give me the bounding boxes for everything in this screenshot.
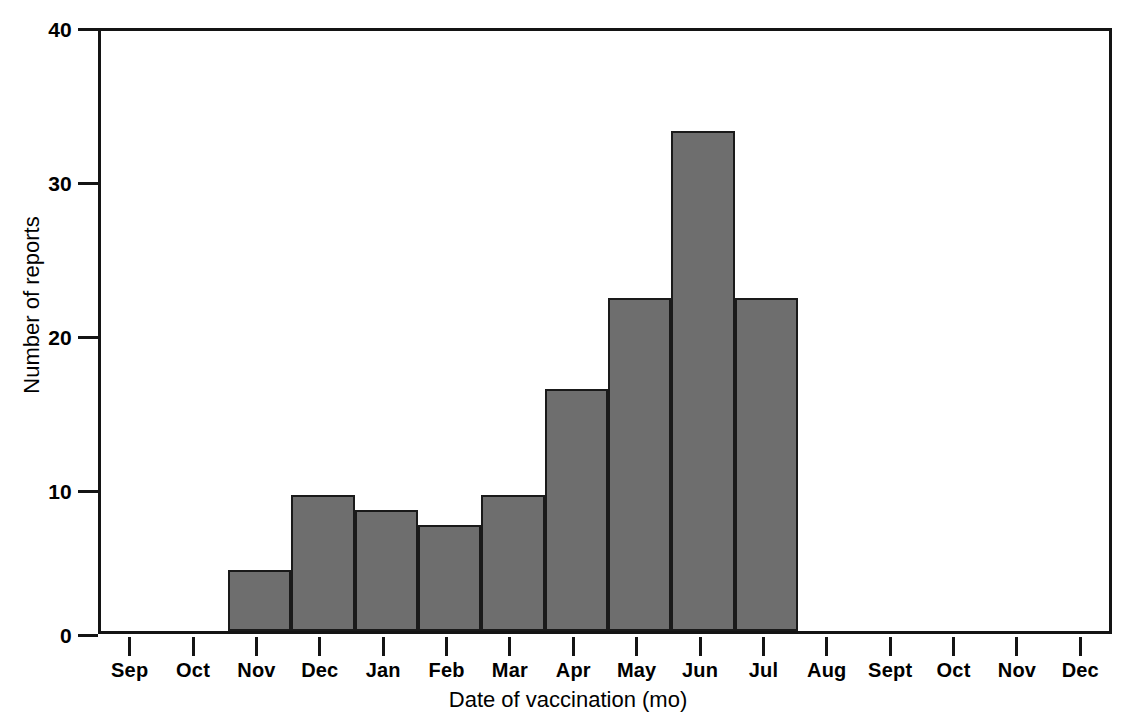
x-axis-tick xyxy=(952,637,955,656)
y-axis-tick xyxy=(78,182,98,185)
x-axis-tick xyxy=(699,637,702,656)
scan-artifact xyxy=(0,713,1136,727)
x-axis-tick xyxy=(192,637,195,656)
x-tick-label: Dec xyxy=(1035,660,1125,680)
x-axis-tick xyxy=(382,637,385,656)
bar xyxy=(545,389,608,631)
y-axis-tick xyxy=(78,336,98,339)
bar xyxy=(671,131,734,631)
x-axis-tick xyxy=(889,637,892,656)
bar xyxy=(735,298,798,631)
x-axis-tick xyxy=(762,637,765,656)
x-axis-tick xyxy=(572,637,575,656)
bar xyxy=(291,495,354,631)
x-axis-tick xyxy=(445,637,448,656)
x-axis-tick xyxy=(1015,637,1018,656)
y-axis-tick xyxy=(78,28,98,31)
plot-area xyxy=(98,28,1112,634)
bar xyxy=(608,298,671,631)
x-axis-tick xyxy=(318,637,321,656)
x-axis-tick xyxy=(825,637,828,656)
y-axis-title: Number of reports xyxy=(19,25,45,585)
bar xyxy=(228,570,291,631)
bar xyxy=(418,525,481,631)
y-tick-label: 0 xyxy=(12,625,72,646)
x-axis-tick xyxy=(255,637,258,656)
x-axis-tick xyxy=(1079,637,1082,656)
x-axis-tick xyxy=(128,637,131,656)
x-axis-tick xyxy=(508,637,511,656)
y-axis-tick xyxy=(78,634,98,637)
bar xyxy=(355,510,418,631)
chart-figure: 40 30 20 10 0 Number of reports SepOctNo… xyxy=(0,0,1136,727)
bar xyxy=(481,495,544,631)
x-axis-title: Date of vaccination (mo) xyxy=(0,689,1136,711)
bar-series xyxy=(101,31,1109,631)
y-axis-tick xyxy=(78,490,98,493)
x-axis-tick xyxy=(635,637,638,656)
